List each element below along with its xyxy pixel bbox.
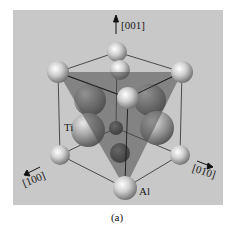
atom-label-ti: Ti: [64, 122, 73, 133]
figure-caption: (a): [0, 211, 234, 223]
sphere-corner-bottom-left: [50, 145, 70, 165]
sphere-corner-top-left: [47, 61, 69, 83]
crystal-structure-diagram: [0, 0, 234, 230]
axis-label-001: [001]: [121, 20, 145, 31]
axis-arrow-001: [114, 15, 119, 34]
sphere-front-top: [117, 87, 139, 109]
sphere-corner-bottom-right: [170, 145, 190, 165]
sphere-corner-top-right: [171, 61, 193, 83]
sphere-top-back: [107, 42, 127, 62]
atom-label-al: Al: [139, 186, 150, 197]
al-sphere-bottom-front: [113, 176, 137, 200]
